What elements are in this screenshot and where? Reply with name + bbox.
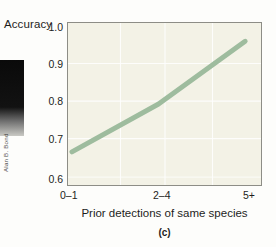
y-tick-label-3: 0.8 bbox=[41, 96, 63, 106]
y-tick-label-4: 0.7 bbox=[41, 134, 63, 144]
x-tick-labels: 0–1 2–4 5+ bbox=[0, 190, 276, 206]
figure-panel-c: Alan B. Bond Accuracy 1.0 0.9 0.8 0.7 0.… bbox=[0, 0, 276, 247]
accuracy-line-series bbox=[72, 41, 245, 152]
photo-credit-text: Alan B. Bond bbox=[2, 92, 14, 172]
panel-caption: (c) bbox=[67, 227, 262, 238]
y-tick-labels: 1.0 0.9 0.8 0.7 0.6 bbox=[39, 0, 63, 247]
y-tick-label-2: 0.9 bbox=[41, 59, 63, 69]
x-tick-label-1: 0–1 bbox=[60, 190, 78, 201]
vertical-gridlines bbox=[120, 23, 212, 185]
x-tick-label-2: 2–4 bbox=[153, 190, 171, 201]
x-tick-label-3: 5+ bbox=[243, 190, 255, 201]
x-axis-title: Prior detections of same species bbox=[67, 207, 262, 219]
y-tick-label-5: 0.6 bbox=[41, 174, 63, 184]
plot-area bbox=[67, 22, 262, 186]
plot-canvas bbox=[68, 23, 261, 185]
y-tick-label-1: 1.0 bbox=[41, 22, 63, 32]
photo-credit-strip: Alan B. Bond bbox=[0, 60, 26, 247]
